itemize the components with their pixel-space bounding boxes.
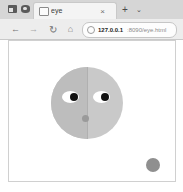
site-info-icon[interactable] bbox=[87, 26, 95, 34]
page-viewport bbox=[8, 40, 176, 182]
forward-icon[interactable]: → bbox=[27, 23, 40, 36]
home-icon[interactable]: ⌂ bbox=[64, 23, 77, 36]
reload-icon[interactable]: ↻ bbox=[46, 23, 59, 36]
face-left-half bbox=[51, 67, 87, 139]
address-bar[interactable]: 127.0.0.1 :8090/eye.html bbox=[82, 22, 177, 38]
chevron-down-icon[interactable]: ⌄ bbox=[134, 5, 144, 15]
face-divider bbox=[87, 67, 88, 139]
tab-overview-icon[interactable] bbox=[21, 5, 30, 13]
cursor-target-dot[interactable] bbox=[146, 158, 160, 172]
navigation-toolbar: ← → ↻ ⌂ 127.0.0.1 :8090/eye.html bbox=[0, 19, 183, 40]
right-pupil bbox=[101, 93, 109, 101]
sidebar-toggle-icon[interactable] bbox=[8, 5, 17, 13]
tab-eye[interactable]: eye × bbox=[33, 2, 117, 20]
eye-tracking-face bbox=[51, 67, 123, 139]
tab-strip: eye × + ⌄ bbox=[0, 0, 183, 20]
back-icon[interactable]: ← bbox=[9, 23, 22, 36]
new-tab-button[interactable]: + bbox=[120, 4, 130, 15]
url-path: :8090/eye.html bbox=[127, 26, 166, 34]
mouth-dot bbox=[82, 115, 89, 122]
url-host: 127.0.0.1 bbox=[98, 26, 123, 34]
browser-window: eye × + ⌄ ← → ↻ ⌂ 127.0.0.1 :8090/eye.ht… bbox=[0, 0, 183, 192]
left-eye bbox=[62, 91, 79, 103]
page-icon bbox=[39, 7, 49, 16]
tab-title: eye bbox=[51, 6, 95, 15]
left-pupil bbox=[70, 93, 78, 101]
right-eye bbox=[93, 91, 110, 103]
close-icon[interactable]: × bbox=[98, 7, 107, 16]
